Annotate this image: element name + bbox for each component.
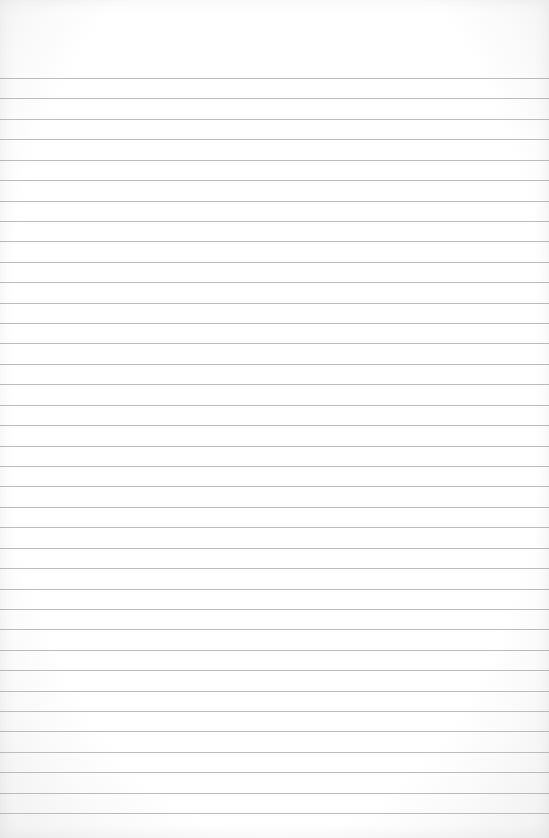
ruled-line [0,262,549,263]
ruled-line [0,364,549,365]
ruled-line [0,629,549,630]
ruled-line [0,221,549,222]
ruled-line [0,731,549,732]
ruled-line [0,752,549,753]
ruled-line [0,446,549,447]
ruled-line [0,343,549,344]
ruled-line [0,486,549,487]
ruled-line [0,691,549,692]
ruled-line [0,466,549,467]
ruled-line [0,507,549,508]
ruled-line [0,303,549,304]
ruled-line [0,548,549,549]
ruled-line [0,527,549,528]
ruled-line [0,119,549,120]
ruled-line [0,793,549,794]
ruled-line [0,241,549,242]
ruled-line [0,772,549,773]
ruled-line [0,98,549,99]
ruled-line [0,78,549,79]
ruled-line [0,323,549,324]
ruled-line [0,711,549,712]
ruled-line [0,609,549,610]
ruled-line [0,650,549,651]
ruled-line [0,405,549,406]
ruled-line [0,384,549,385]
paper-edge-shading [0,0,549,838]
ruled-line [0,139,549,140]
ruled-line [0,568,549,569]
lined-paper-sheet [0,0,549,838]
ruled-line [0,670,549,671]
ruled-line [0,589,549,590]
ruled-line [0,813,549,814]
ruled-line [0,201,549,202]
ruled-line [0,180,549,181]
ruled-line [0,160,549,161]
ruled-line [0,425,549,426]
ruled-line [0,282,549,283]
